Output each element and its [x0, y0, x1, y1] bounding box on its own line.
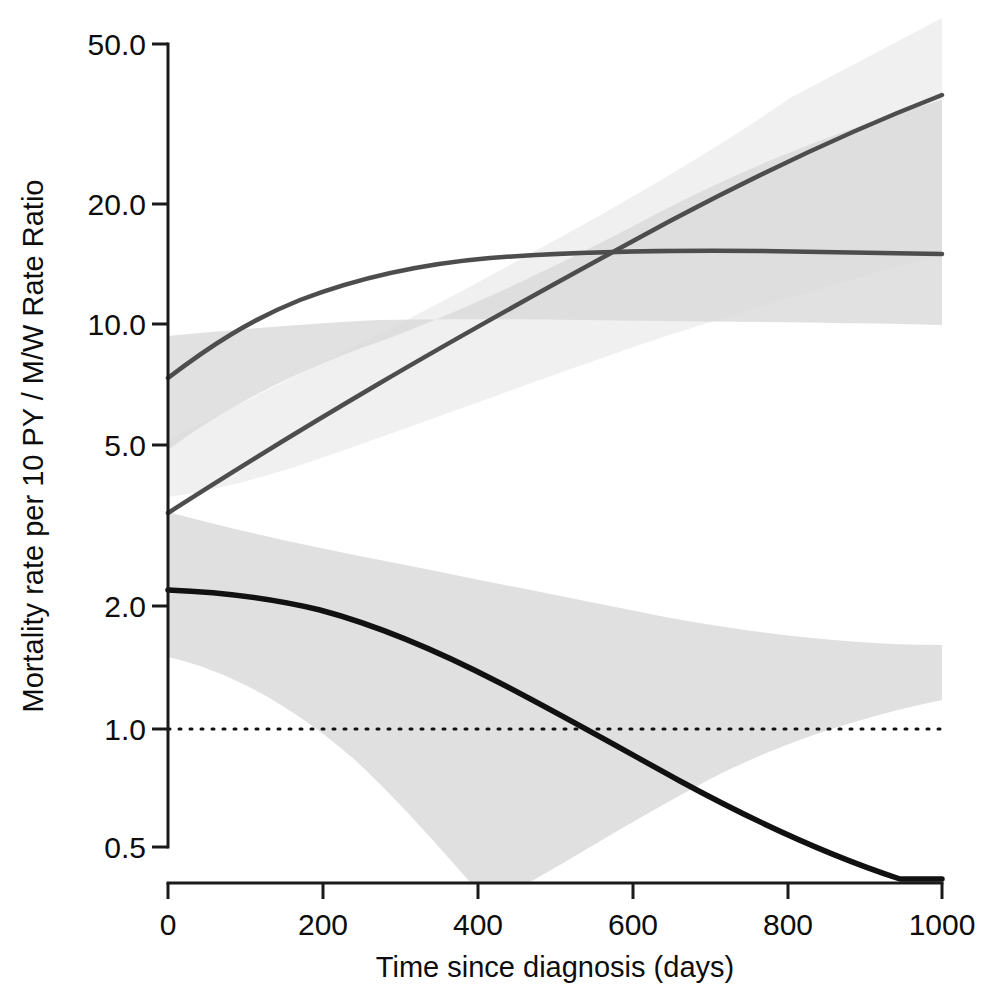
y-tick-label-2: 2.0 [104, 590, 146, 623]
x-tick-label-0: 0 [160, 908, 177, 941]
ci-band-male-female-rate-ratio [168, 512, 942, 882]
x-tick-label-1000: 1000 [909, 908, 976, 941]
mortality-rate-log-chart: 50.0 20.0 10.0 5.0 2.0 1.0 0.5 Mortality… [0, 0, 996, 1003]
y-tick-label-50: 50.0 [88, 28, 146, 61]
y-axis: 50.0 20.0 10.0 5.0 2.0 1.0 0.5 Mortality… [17, 28, 168, 864]
confidence-bands [168, 18, 942, 882]
y-tick-label-1: 1.0 [104, 713, 146, 746]
y-tick-label-0-5: 0.5 [104, 831, 146, 864]
y-tick-label-10: 10.0 [88, 308, 146, 341]
x-axis-title: Time since diagnosis (days) [376, 951, 734, 983]
chart-figure: 50.0 20.0 10.0 5.0 2.0 1.0 0.5 Mortality… [0, 0, 996, 1003]
y-tick-label-20: 20.0 [88, 188, 146, 221]
x-tick-label-800: 800 [763, 908, 813, 941]
x-tick-label-200: 200 [298, 908, 348, 941]
y-tick-label-5: 5.0 [104, 429, 146, 462]
x-tick-label-600: 600 [608, 908, 658, 941]
x-tick-label-400: 400 [453, 908, 503, 941]
x-axis: 0 200 400 600 800 1000 Time since diagno… [160, 883, 976, 983]
y-axis-title: Mortality rate per 10 PY / M/W Rate Rati… [17, 180, 49, 713]
